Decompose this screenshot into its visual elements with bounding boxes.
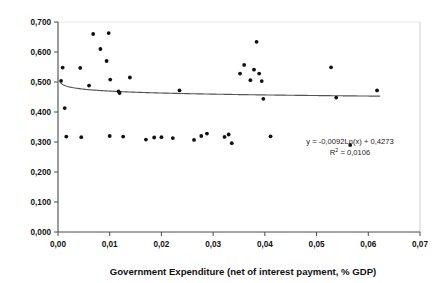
data-point	[107, 31, 111, 35]
data-point	[199, 134, 203, 138]
r-squared-value: = 0,0106	[338, 148, 370, 157]
data-point	[257, 72, 261, 76]
x-tick-label: 0,07	[412, 240, 428, 249]
data-point	[205, 132, 209, 136]
data-point	[230, 141, 234, 145]
data-point	[87, 84, 91, 88]
y-tick-label: 0,500	[31, 78, 52, 87]
plot-frame	[58, 22, 420, 232]
scatter-chart: 0,0000,1000,2000,3000,4000,5000,6000,700…	[0, 0, 442, 283]
y-axis-ticks	[54, 22, 58, 232]
data-point	[78, 66, 82, 70]
data-point	[63, 106, 67, 110]
logarithmic-trendline	[60, 83, 379, 97]
data-point	[178, 89, 182, 93]
data-point	[105, 59, 109, 63]
data-point	[192, 138, 196, 142]
data-point	[227, 133, 231, 137]
x-tick-label: 0,04	[257, 240, 273, 249]
y-tick-label: 0,700	[31, 18, 52, 27]
data-point	[121, 135, 125, 139]
data-point	[242, 63, 246, 67]
y-tick-label: 0,600	[31, 48, 52, 57]
data-point	[261, 97, 265, 101]
data-point	[160, 135, 164, 139]
x-tick-label: 0,01	[102, 240, 118, 249]
r-squared-annotation: R2 = 0,0106	[330, 147, 370, 157]
chart-canvas: 0,0000,1000,2000,3000,4000,5000,6000,700…	[0, 0, 442, 283]
data-point	[152, 136, 156, 140]
data-point	[248, 78, 252, 82]
y-tick-label: 0,000	[31, 228, 52, 237]
data-point	[64, 135, 68, 139]
data-point	[108, 134, 112, 138]
data-point	[375, 89, 379, 93]
data-point	[334, 96, 338, 100]
x-axis-title: Government Expenditure (net of interest …	[110, 266, 377, 277]
data-point	[260, 79, 264, 83]
data-point	[108, 78, 112, 82]
y-tick-label: 0,100	[31, 198, 52, 207]
x-tick-label: 0,06	[360, 240, 376, 249]
x-axis-ticks	[58, 232, 420, 236]
data-point	[223, 135, 227, 139]
data-point	[252, 68, 256, 72]
x-axis-tick-labels: 0,000,010,020,030,040,050,060,07	[50, 240, 428, 249]
data-points-layer	[59, 31, 379, 147]
trendline-annotation: y = -0,0092Ln(x) + 0,4273 R2 = 0,0106	[306, 137, 393, 157]
y-tick-label: 0,400	[31, 108, 52, 117]
trendline-equation: y = -0,0092Ln(x) + 0,4273	[306, 137, 393, 146]
data-point	[144, 138, 148, 142]
data-point	[91, 32, 95, 36]
data-point	[171, 136, 175, 140]
y-axis-tick-labels: 0,0000,1000,2000,3000,4000,5000,6000,700	[31, 18, 52, 237]
data-point	[128, 76, 132, 80]
data-point	[61, 66, 65, 70]
data-point	[99, 47, 103, 51]
data-point	[79, 135, 83, 139]
data-point	[59, 79, 63, 83]
data-point	[238, 72, 242, 76]
y-tick-label: 0,300	[31, 138, 52, 147]
data-point	[255, 40, 259, 44]
x-tick-label: 0,00	[50, 240, 66, 249]
x-tick-label: 0,02	[153, 240, 169, 249]
y-tick-label: 0,200	[31, 168, 52, 177]
data-point	[269, 134, 273, 138]
data-point	[118, 91, 122, 95]
data-point	[329, 65, 333, 69]
x-tick-label: 0,05	[309, 240, 325, 249]
x-tick-label: 0,03	[205, 240, 221, 249]
